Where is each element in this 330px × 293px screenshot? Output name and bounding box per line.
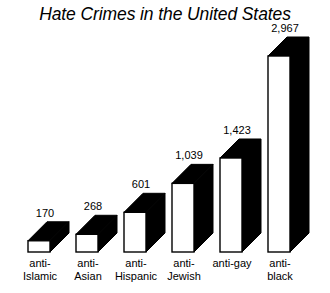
bar-front-face (220, 158, 242, 252)
bar-anti-Islamic[interactable] (28, 222, 69, 252)
category-label-anti-Hispanic: anti- (125, 257, 147, 269)
category-label-anti-Islamic: Islamic (23, 270, 58, 282)
bar-front-face (268, 56, 290, 252)
bar-chart-plot: 1702686011,0391,4232,967 anti-Islamicant… (0, 0, 330, 293)
bar-value-label: 2,967 (271, 22, 299, 34)
bars-group (28, 37, 309, 252)
bar-front-face (28, 241, 50, 252)
bar-anti-Hispanic[interactable] (124, 193, 165, 252)
bar-anti-Asian[interactable] (76, 215, 117, 252)
bar-side-face (290, 37, 309, 252)
category-label-anti-Islamic: anti- (29, 257, 51, 269)
bar-front-face (76, 234, 98, 252)
bar-anti-black[interactable] (268, 37, 309, 252)
category-label-anti-black: black (267, 270, 293, 282)
bar-value-label: 1,423 (223, 124, 251, 136)
bar-anti-gay[interactable] (220, 139, 261, 252)
category-label-anti-Asian: Asian (74, 270, 102, 282)
category-label-anti-black: anti- (269, 257, 291, 269)
category-label-anti-Jewish: anti- (173, 257, 195, 269)
bar-front-face (124, 212, 146, 252)
bar-value-label: 170 (36, 207, 54, 219)
bar-side-face (242, 139, 261, 252)
category-label-anti-Hispanic: Hispanic (115, 270, 158, 282)
bar-value-label: 1,039 (175, 149, 203, 161)
category-label-anti-Jewish: Jewish (167, 270, 201, 282)
bar-anti-Jewish[interactable] (172, 164, 213, 252)
category-labels-group: anti-Islamicanti-Asiananti-Hispanicanti-… (23, 257, 293, 282)
bar-value-label: 601 (132, 178, 150, 190)
chart-page: Hate Crimes in the United States 1702686… (0, 0, 330, 293)
bar-front-face (172, 183, 194, 252)
category-label-anti-Asian: anti- (77, 257, 99, 269)
category-label-anti-gay: anti-gay (212, 257, 252, 269)
bar-value-label: 268 (84, 200, 102, 212)
